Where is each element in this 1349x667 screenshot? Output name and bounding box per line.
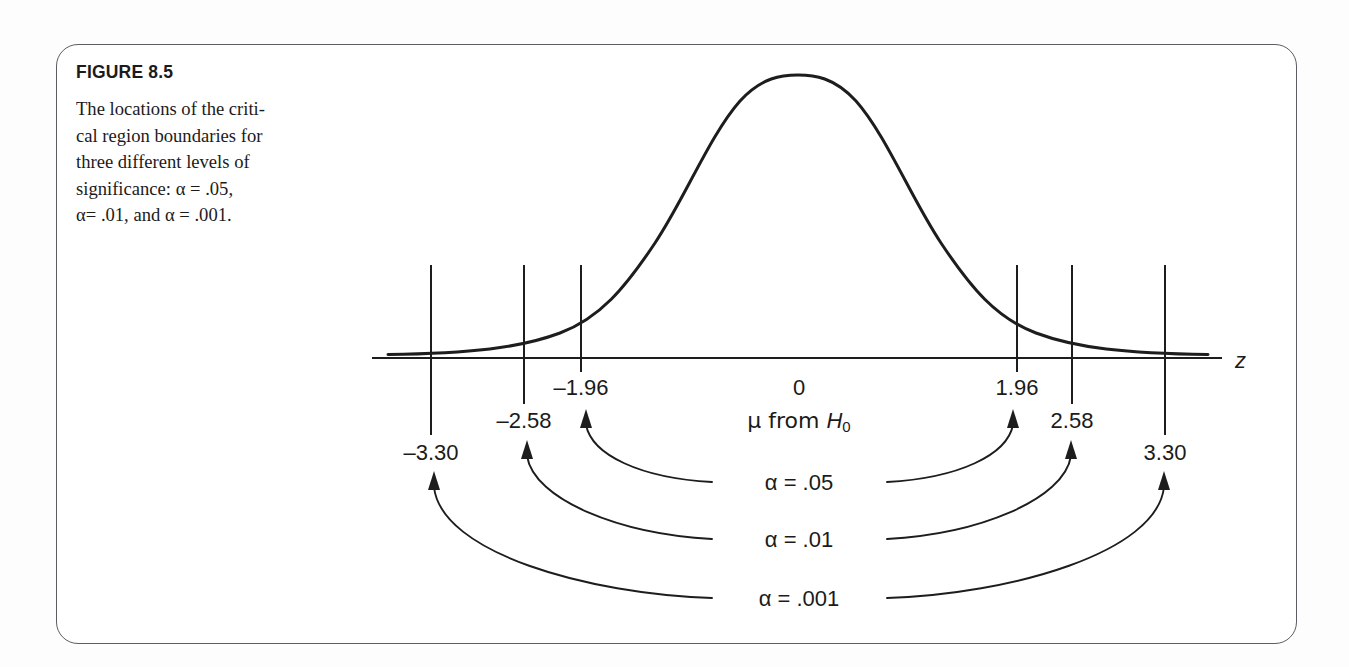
z-axis-label: z [1235, 348, 1246, 374]
alpha-001-arrow-right [1158, 471, 1170, 490]
alpha-01-label: α = .01 [756, 527, 842, 553]
tick-label-neg-1-96: –1.96 [553, 375, 608, 401]
h-subscript: 0 [842, 418, 850, 435]
alpha-01-arrow-right [1065, 440, 1077, 459]
alpha-01-arc-right [887, 456, 1071, 539]
tick-label-zero: 0 [793, 375, 805, 401]
alpha-05-arc-left [586, 425, 712, 482]
alpha-01-arc-left [527, 456, 712, 539]
h-symbol: H [826, 408, 842, 433]
tick-label-pos-1-96: 1.96 [996, 375, 1039, 401]
alpha-01-arrow-left [521, 440, 533, 459]
tick-label-neg-2-58: –2.58 [496, 408, 551, 434]
normal-curve-plot [0, 0, 1349, 667]
alpha-05-label: α = .05 [756, 470, 842, 496]
alpha-001-arc-right [887, 487, 1164, 598]
mu-symbol: μ from [747, 408, 826, 433]
mu-from-h0-label: μ from H0 [747, 408, 850, 435]
tick-label-pos-2-58: 2.58 [1051, 408, 1094, 434]
alpha-001-arc-left [434, 487, 712, 598]
figure-container: FIGURE 8.5 The locations of the criti- c… [0, 0, 1349, 667]
alpha-05-arc-right [887, 425, 1013, 482]
normal-distribution-curve [388, 75, 1208, 355]
tick-label-neg-3-30: –3.30 [403, 440, 458, 466]
alpha-001-label: α = .001 [750, 586, 849, 612]
alpha-05-arrow-left [580, 409, 592, 428]
alpha-001-arrow-left [428, 471, 440, 490]
tick-label-pos-3-30: 3.30 [1144, 440, 1187, 466]
alpha-05-arrow-right [1007, 409, 1019, 428]
